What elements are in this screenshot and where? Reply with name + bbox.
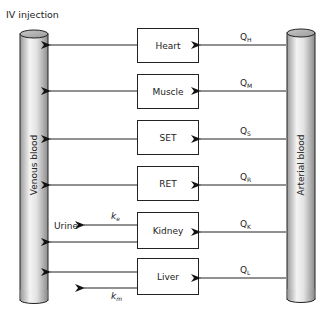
- organ-heart: Heart QH: [50, 29, 286, 63]
- urine-label: Urine: [54, 221, 78, 231]
- renal-rate-label: ke: [111, 211, 120, 222]
- flow-label-set: QS: [240, 126, 251, 137]
- arterial-blood-label: Arterial blood: [296, 135, 306, 196]
- metabolic-rate-label: km: [111, 291, 122, 302]
- organ-label: Liver: [157, 272, 179, 282]
- arterial-blood-cylinder: Arterial blood: [287, 29, 315, 303]
- organ-label: RET: [159, 179, 177, 189]
- organ-label: Muscle: [152, 87, 184, 97]
- flow-label-liver: QL: [240, 265, 251, 276]
- organ-label: SET: [160, 133, 177, 143]
- organ-label: Heart: [155, 41, 181, 51]
- pbpk-diagram: Venous blood Arterial blood Heart QH Mus…: [0, 0, 331, 323]
- venous-blood-cylinder: Venous blood: [20, 30, 48, 304]
- organ-muscle: Muscle QM: [50, 75, 286, 109]
- organ-label: Kidney: [153, 226, 184, 236]
- organ-set: SET QS: [50, 121, 286, 155]
- organ-liver: Liver QL km: [50, 259, 286, 303]
- organ-ret: RET QR: [50, 167, 286, 201]
- flow-label-muscle: QM: [240, 78, 252, 89]
- venous-blood-label: Venous blood: [29, 135, 39, 195]
- organ-kidney: Kidney QK Urine ke: [50, 211, 286, 249]
- flow-label-heart: QH: [240, 32, 252, 43]
- flow-label-kidney: QK: [240, 219, 252, 230]
- flow-label-ret: QR: [240, 172, 251, 183]
